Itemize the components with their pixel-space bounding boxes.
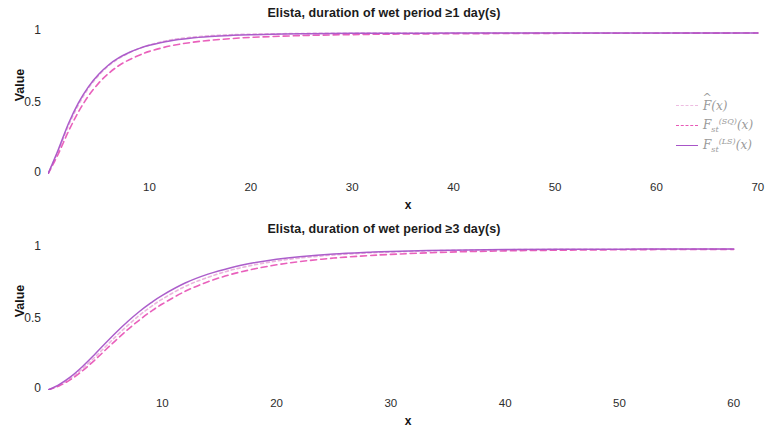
legend-label-F_st_SQ: Fst(SQ)(x) xyxy=(703,117,753,134)
y-tick-bottom-05: 0.5 xyxy=(24,311,41,325)
legend-top: F(x)Fst(SQ)(x)Fst(LS)(x) xyxy=(676,96,753,156)
x-tick-0-20: 20 xyxy=(244,181,257,193)
x-tick-0-70: 70 xyxy=(751,181,764,193)
y-tick-bottom-1: 1 xyxy=(34,239,41,253)
y-tick-top-1: 1 xyxy=(34,23,41,37)
chart-panel-top: Elista, duration of wet period ≥1 day(s)… xyxy=(0,0,768,216)
curve-F_hat xyxy=(48,33,758,174)
plot-area-bottom: Value 1 0.5 0 x 102030405060 xyxy=(48,242,768,390)
legend-label-F_hat: F(x) xyxy=(703,99,727,113)
curve-F_st_SQ xyxy=(48,249,734,390)
x-axis-label-top: x xyxy=(48,198,768,212)
y-tick-top-05: 0.5 xyxy=(24,95,41,109)
curves-top xyxy=(48,26,768,174)
x-tick-0-30: 30 xyxy=(346,181,359,193)
curves-bottom xyxy=(48,242,768,390)
legend-label-F_st_LS: Fst(LS)(x) xyxy=(703,137,752,154)
curve-F_hat xyxy=(48,249,734,390)
curve-F_st_SQ xyxy=(48,33,758,174)
chart-title-top: Elista, duration of wet period ≥1 day(s) xyxy=(0,6,768,20)
legend-item-F_st_SQ: Fst(SQ)(x) xyxy=(676,116,753,136)
x-tick-1-60: 60 xyxy=(727,397,740,409)
curve-F_st_LS xyxy=(48,33,758,174)
chart-title-bottom: Elista, duration of wet period ≥3 day(s) xyxy=(0,222,768,236)
x-tick-0-10: 10 xyxy=(143,181,156,193)
y-tick-bottom-0: 0 xyxy=(34,381,41,395)
x-tick-1-40: 40 xyxy=(499,397,512,409)
x-tick-1-50: 50 xyxy=(613,397,626,409)
x-tick-1-20: 20 xyxy=(270,397,283,409)
x-axis-label-bottom: x xyxy=(48,414,768,428)
curve-F_st_LS xyxy=(48,249,734,390)
chart-panel-bottom: Elista, duration of wet period ≥3 day(s)… xyxy=(0,216,768,432)
plot-area-top: Value 1 0.5 0 x 10203040506070 xyxy=(48,26,768,174)
x-tick-1-30: 30 xyxy=(384,397,397,409)
x-tick-0-50: 50 xyxy=(549,181,562,193)
y-tick-top-0: 0 xyxy=(34,165,41,179)
legend-item-F_st_LS: Fst(LS)(x) xyxy=(676,136,753,156)
legend-item-F_hat: F(x) xyxy=(676,96,753,116)
x-tick-0-60: 60 xyxy=(650,181,663,193)
x-tick-1-10: 10 xyxy=(156,397,169,409)
x-tick-0-40: 40 xyxy=(447,181,460,193)
